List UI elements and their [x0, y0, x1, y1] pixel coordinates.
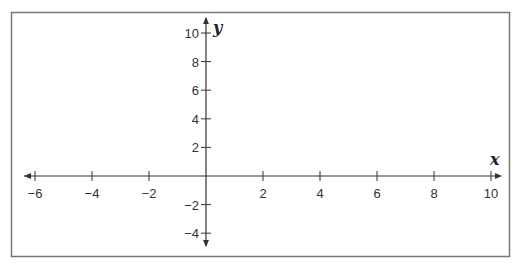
tick-labels: −6−4−2246810108642−2−4 [28, 26, 499, 241]
axes [24, 17, 502, 247]
y-tick-label: 6 [192, 83, 199, 98]
y-tick-label: 8 [192, 55, 199, 70]
y-tick-label: −2 [184, 198, 199, 213]
y-tick-label: 10 [185, 26, 199, 41]
frame-border [12, 13, 510, 257]
ticks [35, 33, 491, 233]
x-axis-left-arrow-icon [24, 173, 31, 179]
x-tick-label: −2 [142, 186, 157, 201]
y-tick-label: −4 [184, 226, 199, 241]
x-tick-label: 10 [484, 186, 498, 201]
x-tick-label: −6 [28, 186, 43, 201]
x-tick-label: 8 [430, 186, 437, 201]
y-axis-label: y [212, 18, 224, 37]
y-axis-down-arrow-icon [203, 240, 209, 247]
x-tick-label: 2 [259, 186, 266, 201]
y-axis-up-arrow-icon [203, 17, 209, 24]
x-tick-label: −4 [85, 186, 100, 201]
coordinate-plane: −6−4−2246810108642−2−4 x y [0, 0, 520, 266]
y-tick-label: 2 [192, 140, 199, 155]
x-axis-right-arrow-icon [495, 173, 502, 179]
y-tick-label: 4 [192, 112, 199, 127]
x-axis-label: x [489, 150, 500, 169]
x-tick-label: 6 [373, 186, 380, 201]
x-tick-label: 4 [316, 186, 323, 201]
